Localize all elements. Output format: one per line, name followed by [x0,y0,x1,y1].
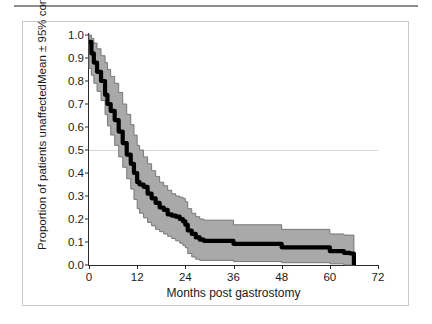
x-tick-label: 48 [275,271,288,283]
x-tick-mark [89,265,90,269]
plot-area: 0.00.10.20.30.40.50.60.70.80.91.0 012243… [89,35,378,265]
y-axis-title-line1: Proportion of patients unaffected [34,84,50,250]
x-tick-label: 72 [372,271,385,283]
x-tick-mark [330,265,331,269]
x-tick-mark [378,265,379,269]
x-tick-label: 12 [131,271,144,283]
x-tick-label: 36 [227,271,240,283]
x-tick-mark [137,265,138,269]
x-tick-label: 60 [323,271,336,283]
y-axis-title: Proportion of patients unaffected Mean ±… [34,0,68,250]
x-tick-mark [234,265,235,269]
x-tick-label: 24 [179,271,192,283]
figure-root: Proportion of patients unaffected Mean ±… [0,0,432,324]
x-tick-mark [282,265,283,269]
x-tick-mark [185,265,186,269]
x-tick-label: 0 [86,271,92,283]
x-axis-title: Months post gastrostomy [89,286,378,300]
page-top-rule [14,5,418,7]
y-axis-title-line2: Mean ± 95% confidence interval [34,0,50,84]
survival-curve-graphic [89,35,378,265]
